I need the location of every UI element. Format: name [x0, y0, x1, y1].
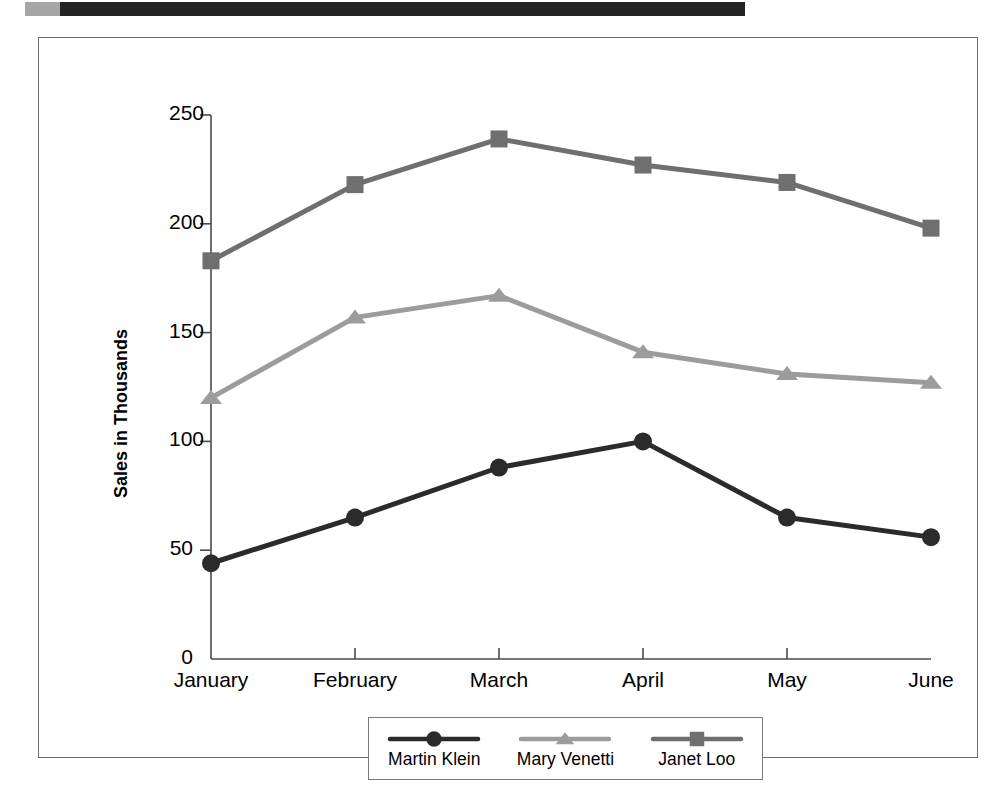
- y-axis-tick-label: 0: [169, 645, 193, 669]
- data-series-group: [200, 130, 942, 572]
- y-axis-tick-label: 200: [169, 210, 193, 234]
- series-line: [211, 296, 931, 398]
- x-axis-tick-label: February: [275, 668, 435, 692]
- legend-label: Janet Loo: [658, 749, 735, 770]
- line-chart-svg: [169, 103, 959, 683]
- y-axis-tick-label: 150: [169, 319, 193, 343]
- top-bar-light-segment: [25, 2, 60, 16]
- series-data-point: [778, 509, 796, 527]
- series-data-point: [491, 130, 508, 147]
- x-axis-tick-label: March: [419, 668, 579, 692]
- y-axis-tick-label: 100: [169, 427, 193, 451]
- plot-area: 050100150200250JanuaryFebruaryMarchApril…: [169, 103, 959, 683]
- series-data-point: [634, 432, 652, 450]
- data-series: [202, 432, 940, 572]
- data-series: [200, 288, 942, 404]
- legend-swatch-square-icon: [649, 728, 745, 748]
- series-data-point: [202, 554, 220, 572]
- y-axis-tick-label: 250: [169, 101, 193, 125]
- series-data-point: [923, 220, 940, 237]
- series-data-point: [347, 176, 364, 193]
- series-line: [211, 139, 931, 261]
- legend-label: Martin Klein: [388, 749, 480, 770]
- legend-item[interactable]: Martin Klein: [384, 728, 484, 770]
- data-series: [203, 130, 940, 269]
- legend-swatch-triangle-icon: [517, 728, 613, 748]
- top-decorative-bar: [25, 2, 745, 16]
- legend-swatch-circle-icon: [386, 728, 482, 748]
- series-data-point: [346, 509, 364, 527]
- figure-frame: Sales in Thousands 050100150200250Januar…: [38, 37, 978, 758]
- y-axis-tick-label: 50: [169, 536, 193, 560]
- x-axis-tick-label: May: [707, 668, 867, 692]
- series-data-point: [779, 174, 796, 191]
- x-axis-tick-label: January: [131, 668, 291, 692]
- x-axis-tick-label: April: [563, 668, 723, 692]
- series-data-point: [922, 528, 940, 546]
- top-bar-dark-segment: [60, 2, 745, 16]
- legend-item[interactable]: Janet Loo: [647, 728, 747, 770]
- legend-label: Mary Venetti: [517, 749, 614, 770]
- series-line: [211, 441, 931, 563]
- y-axis-title: Sales in Thousands: [111, 284, 132, 544]
- axis-ticks: [200, 115, 787, 659]
- series-data-point: [635, 157, 652, 174]
- legend-items: Martin KleinMary VenettiJanet Loo: [369, 718, 762, 779]
- chart-legend: Martin KleinMary VenettiJanet Loo: [368, 717, 763, 780]
- legend-item[interactable]: Mary Venetti: [515, 728, 616, 770]
- series-data-point: [203, 252, 220, 269]
- x-axis-tick-label: June: [851, 668, 990, 692]
- series-data-point: [490, 459, 508, 477]
- axes: [211, 115, 931, 659]
